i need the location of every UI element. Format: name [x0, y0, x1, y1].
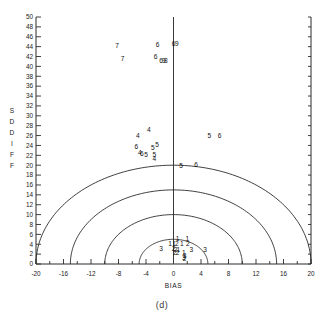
- axes-layer: [36, 17, 311, 264]
- data-point: 6: [156, 41, 160, 48]
- y-tick-label: 10: [26, 211, 34, 218]
- data-point: 8: [164, 57, 168, 64]
- data-point: 1: [180, 240, 184, 247]
- data-point: 5: [155, 141, 159, 148]
- y-tick-label: 2: [29, 250, 33, 257]
- y-tick-label: 32: [26, 102, 34, 109]
- x-tick-label: -20: [31, 270, 41, 277]
- x-tick-label: -12: [86, 270, 96, 277]
- data-point: 4: [147, 126, 151, 133]
- data-point: 9: [175, 40, 179, 47]
- x-tick-label: 8: [227, 270, 231, 277]
- data-point: 3: [159, 245, 163, 252]
- y-tick-label: 4: [29, 241, 33, 248]
- y-tick-label: 8: [29, 221, 33, 228]
- x-tick-label: 0: [172, 270, 176, 277]
- y-tick-label: 46: [26, 33, 34, 40]
- x-tick-label: -4: [143, 270, 149, 277]
- y-axis-title-char: S: [10, 107, 15, 114]
- y-axis-title-char: F: [10, 151, 14, 158]
- y-tick-label: 44: [26, 43, 34, 50]
- data-point: 4: [152, 155, 156, 162]
- x-tick-label: 20: [307, 270, 315, 277]
- y-tick-label: 48: [26, 23, 34, 30]
- y-axis-title-char: D: [10, 118, 15, 125]
- y-tick-label: 34: [26, 92, 34, 99]
- y-tick-label: 20: [26, 162, 34, 169]
- data-point: 5: [151, 144, 155, 151]
- y-axis-title-char: F: [10, 162, 14, 169]
- data-point: 7: [121, 55, 125, 62]
- data-point: 4: [136, 132, 140, 139]
- figure-caption: (d): [0, 300, 324, 310]
- data-point: 5: [144, 151, 148, 158]
- y-tick-label: 14: [26, 191, 34, 198]
- data-point: 3: [190, 246, 194, 253]
- x-tick-label: 12: [252, 270, 260, 277]
- data-point: 6: [194, 161, 198, 168]
- y-tick-label: 18: [26, 171, 34, 178]
- y-tick-label: 16: [26, 181, 34, 188]
- y-tick-label: 6: [29, 231, 33, 238]
- y-tick-label: 24: [26, 142, 34, 149]
- y-tick-label: 50: [26, 13, 34, 20]
- data-point: 7: [115, 42, 119, 49]
- data-points-layer: 7766966984456655465545611112123221332213…: [115, 40, 221, 262]
- data-point: 5: [207, 132, 211, 139]
- y-tick-label: 0: [29, 260, 33, 267]
- data-point: 2: [176, 249, 180, 256]
- data-point: 5: [179, 162, 183, 169]
- scatter-plot: 7766966984456655465545611112123221332213…: [0, 0, 324, 324]
- y-tick-label: 42: [26, 53, 34, 60]
- y-tick-label: 12: [26, 201, 34, 208]
- x-axis-title: BIAS: [165, 282, 182, 289]
- data-point: 3: [203, 246, 207, 253]
- data-point: 3: [182, 254, 186, 261]
- y-tick-label: 30: [26, 112, 34, 119]
- data-point: 6: [218, 132, 222, 139]
- y-axis-title-char: D: [10, 129, 15, 136]
- x-tick-label: 4: [199, 270, 203, 277]
- y-tick-label: 28: [26, 122, 34, 129]
- figure-panel: 7766966984456655465545611112123221332213…: [0, 0, 324, 324]
- y-tick-label: 38: [26, 73, 34, 80]
- data-point: 6: [154, 53, 158, 60]
- y-tick-label: 36: [26, 82, 34, 89]
- y-tick-label: 26: [26, 132, 34, 139]
- y-tick-label: 22: [26, 152, 34, 159]
- x-tick-label: -8: [116, 270, 122, 277]
- y-axis-title-char: I: [11, 140, 13, 147]
- y-tick-label: 40: [26, 63, 34, 70]
- x-tick-label: 16: [280, 270, 288, 277]
- x-tick-label: -16: [59, 270, 69, 277]
